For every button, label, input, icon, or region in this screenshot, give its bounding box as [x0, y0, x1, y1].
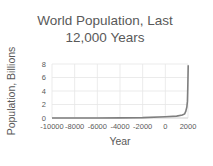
- x-tick-label: 2000: [180, 122, 197, 131]
- x-axis-ticks: -10000-8000-6000-4000-200002000: [40, 122, 196, 131]
- x-tick-label: -2000: [133, 122, 152, 131]
- chart-container: World Population, Last 12,000 Years Popu…: [0, 0, 213, 166]
- y-tick-label: 6: [42, 73, 46, 82]
- x-tick-label: -6000: [88, 122, 107, 131]
- y-tick-label: 4: [42, 87, 46, 96]
- gridlines: [52, 64, 188, 118]
- x-tick-label: -8000: [65, 122, 84, 131]
- x-tick-label: 0: [163, 122, 167, 131]
- y-axis-ticks: 02468: [42, 60, 46, 123]
- plot-area: 02468 -10000-8000-6000-4000-200002000: [0, 0, 213, 166]
- y-tick-label: 8: [42, 60, 46, 69]
- y-tick-label: 2: [42, 100, 46, 109]
- x-tick-label: -10000: [40, 122, 63, 131]
- x-tick-label: -4000: [110, 122, 129, 131]
